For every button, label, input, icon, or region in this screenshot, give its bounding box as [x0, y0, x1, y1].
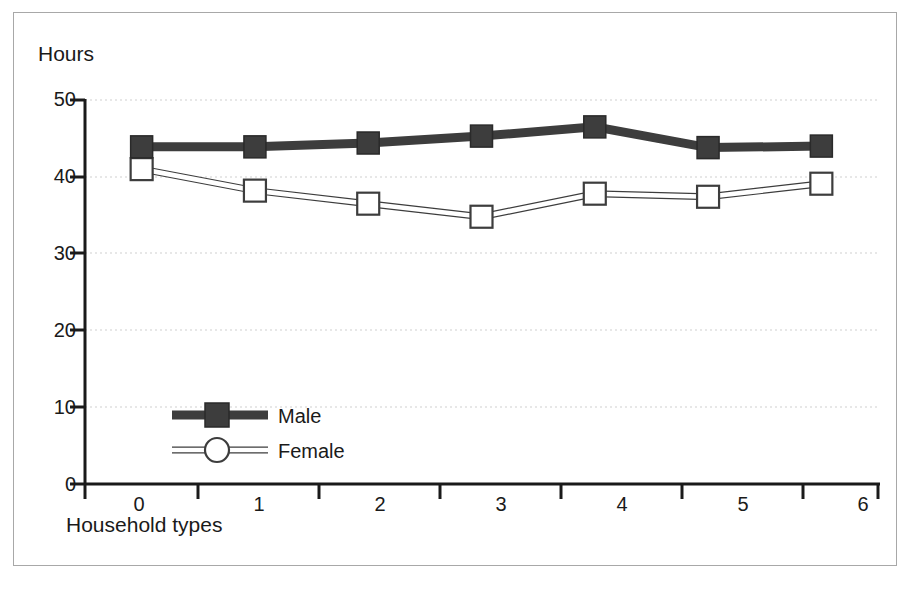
series-male [131, 116, 833, 159]
data-point-female-3 [471, 206, 493, 228]
legend-swatch-female [172, 438, 268, 462]
data-point-female-4 [584, 183, 606, 205]
data-point-female-2 [357, 193, 379, 215]
series-female [131, 158, 833, 228]
data-point-female-5 [697, 186, 719, 208]
x-axis [84, 484, 880, 499]
chart-plot-area: Hours Household types 50 40 30 20 10 0 0… [0, 0, 920, 589]
data-point-male-6 [810, 135, 832, 157]
data-point-male-0 [131, 136, 153, 158]
y-axis [70, 99, 85, 484]
data-point-male-4 [584, 116, 606, 138]
data-point-female-0 [131, 158, 153, 180]
data-point-female-6 [810, 173, 832, 195]
data-point-male-3 [471, 125, 493, 147]
data-point-female-1 [244, 180, 266, 202]
data-point-male-1 [244, 136, 266, 158]
data-point-male-5 [697, 137, 719, 159]
data-point-male-2 [357, 132, 379, 154]
chart-svg [0, 0, 920, 589]
